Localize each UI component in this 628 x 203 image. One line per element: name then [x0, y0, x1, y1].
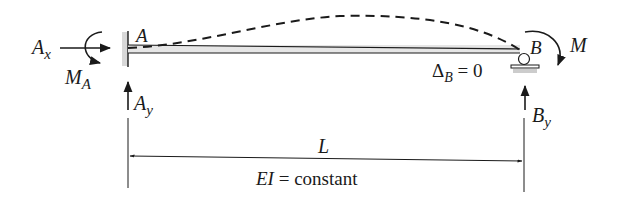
- label-point-b: B: [530, 37, 542, 58]
- label-ax: Ax: [30, 36, 51, 62]
- label-ma: MA: [64, 66, 92, 92]
- label-ei-constant: EI = constant: [255, 168, 358, 189]
- label-length: L: [317, 135, 329, 157]
- label-moment-b: M: [569, 34, 588, 56]
- beam-diagram: Ax MA A Ay B M ΔB = 0 By L EI = constant: [0, 0, 628, 203]
- label-ay: Ay: [132, 92, 153, 118]
- label-point-a: A: [134, 25, 148, 46]
- deflected-shape: [128, 16, 520, 50]
- label-by: By: [532, 104, 551, 130]
- label-delta-b: ΔB = 0: [432, 60, 483, 85]
- fixed-support-a: [122, 31, 128, 67]
- beam: [128, 45, 520, 53]
